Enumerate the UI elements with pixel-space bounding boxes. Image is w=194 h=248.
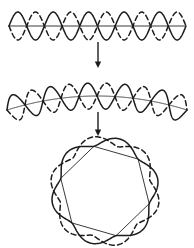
ring-inscribed-polygon: [61, 146, 149, 235]
wave-ring-diagram: [0, 0, 194, 248]
stage-straight-wave: [9, 12, 186, 40]
diagram-canvas: [0, 0, 194, 248]
ring-solid-arcs: [52, 138, 158, 243]
arrow-bottom: [95, 112, 101, 136]
bent-axis-arc: [7, 96, 187, 110]
arrow-bottom-head-icon: [95, 130, 101, 137]
stage-ring: [51, 137, 159, 245]
arrow-top: [95, 42, 101, 68]
arrow-top-head-icon: [95, 62, 101, 69]
stage-bent-wave: [7, 83, 187, 120]
